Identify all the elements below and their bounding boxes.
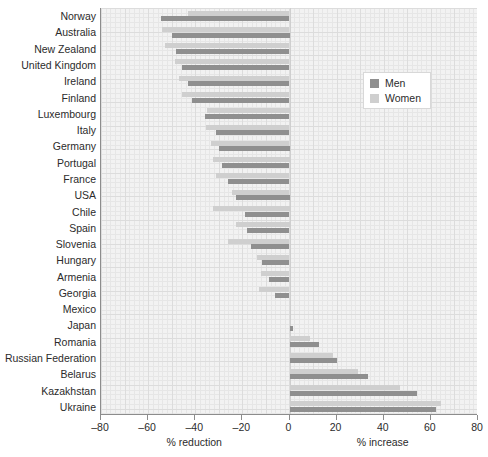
x-axis-ticklabel-40: 40 xyxy=(363,421,403,433)
bar-women-norway xyxy=(188,11,289,16)
y-axis-label-italy: Italy xyxy=(0,125,96,135)
y-axis-label-japan: Japan xyxy=(0,320,96,330)
legend-swatch-women-icon xyxy=(370,94,379,103)
legend-label-women: Women xyxy=(385,93,421,103)
bar-men-australia xyxy=(172,33,290,38)
y-axis-label-kazakhstan: Kazakhstan xyxy=(0,386,96,396)
x-axis-ticklabel-0: 0 xyxy=(269,421,309,433)
bar-men-belarus xyxy=(290,374,369,379)
bar-women-france xyxy=(216,173,289,178)
bar-men-slovenia xyxy=(251,244,290,249)
bar-women-ireland xyxy=(179,76,290,81)
x-axis-ticklabel-60: 60 xyxy=(410,421,450,433)
bar-women-georgia xyxy=(259,287,290,292)
x-axis-tick--20 xyxy=(241,415,242,420)
y-axis-label-armenia: Armenia xyxy=(0,272,96,282)
y-axis-label-united-kingdom: United Kingdom xyxy=(0,60,96,70)
bar-men-france xyxy=(228,179,289,184)
x-axis-ticklabel-20: 20 xyxy=(316,421,356,433)
bar-men-kazakhstan xyxy=(290,391,417,396)
y-axis-label-ireland: Ireland xyxy=(0,76,96,86)
bar-men-luxembourg xyxy=(205,114,290,119)
y-axis-label-mexico: Mexico xyxy=(0,304,96,314)
legend[interactable]: Men Women xyxy=(363,72,431,109)
y-axis-label-new-zealand: New Zealand xyxy=(0,44,96,54)
y-axis-label-finland: Finland xyxy=(0,93,96,103)
bar-women-portugal xyxy=(213,157,290,162)
x-axis-title-reduction: % reduction xyxy=(124,436,264,448)
bar-men-armenia xyxy=(269,277,289,282)
bar-women-australia xyxy=(162,27,289,32)
bar-men-russian-federation xyxy=(290,358,337,363)
x-axis-ticklabel--20: –20 xyxy=(221,421,261,433)
bar-women-kazakhstan xyxy=(290,385,401,390)
y-axis-label-chile: Chile xyxy=(0,207,96,217)
y-axis-label-usa: USA xyxy=(0,190,96,200)
bar-women-armenia xyxy=(261,271,289,276)
x-axis-tick--60 xyxy=(147,415,148,420)
bar-women-chile xyxy=(213,206,290,211)
bar-women-luxembourg xyxy=(207,108,289,113)
y-axis-label-germany: Germany xyxy=(0,141,96,151)
x-axis-ticklabel--60: –60 xyxy=(127,421,167,433)
x-axis-ticklabel-80: 80 xyxy=(457,421,488,433)
plot-area xyxy=(100,8,477,415)
x-axis-tick-80 xyxy=(477,415,478,420)
bar-men-italy xyxy=(216,130,289,135)
bar-women-italy xyxy=(206,125,290,130)
y-axis-label-ukraine: Ukraine xyxy=(0,402,96,412)
bar-men-georgia xyxy=(275,293,289,298)
bar-women-hungary xyxy=(257,255,290,260)
x-axis-tick-0 xyxy=(289,415,290,420)
bar-men-chile xyxy=(245,212,290,217)
bar-men-new-zealand xyxy=(176,49,289,54)
bar-women-slovenia xyxy=(228,239,289,244)
y-axis-label-spain: Spain xyxy=(0,223,96,233)
bar-men-germany xyxy=(219,146,290,151)
bar-men-finland xyxy=(192,98,290,103)
y-axis-labels: NorwayAustraliaNew ZealandUnited Kingdom… xyxy=(0,8,96,415)
bar-men-hungary xyxy=(262,260,289,265)
bar-men-portugal xyxy=(222,163,289,168)
bar-men-usa xyxy=(236,195,289,200)
y-axis-label-russian-federation: Russian Federation xyxy=(0,353,96,363)
y-axis-label-romania: Romania xyxy=(0,337,96,347)
bar-women-new-zealand xyxy=(165,43,290,48)
y-axis-label-belarus: Belarus xyxy=(0,369,96,379)
bar-men-ukraine xyxy=(290,407,436,412)
legend-label-men: Men xyxy=(385,78,405,88)
bar-women-ukraine xyxy=(290,401,442,406)
y-axis-label-australia: Australia xyxy=(0,27,96,37)
y-axis-label-portugal: Portugal xyxy=(0,158,96,168)
bar-men-spain xyxy=(247,228,289,233)
x-axis-tick-20 xyxy=(336,415,337,420)
x-axis-tick-60 xyxy=(430,415,431,420)
bar-women-russian-federation xyxy=(290,353,334,358)
legend-item-women[interactable]: Women xyxy=(370,93,421,103)
bar-women-usa xyxy=(232,190,290,195)
bar-men-united-kingdom xyxy=(182,65,289,70)
bar-women-romania xyxy=(290,336,310,341)
bar-women-belarus xyxy=(290,369,358,374)
bar-women-spain xyxy=(236,222,289,227)
bar-women-finland xyxy=(182,92,289,97)
legend-item-men[interactable]: Men xyxy=(370,78,421,88)
bar-men-norway xyxy=(161,16,289,21)
y-axis-label-luxembourg: Luxembourg xyxy=(0,109,96,119)
y-axis-label-hungary: Hungary xyxy=(0,255,96,265)
legend-swatch-men-icon xyxy=(370,79,379,88)
y-axis-label-norway: Norway xyxy=(0,11,96,21)
bar-men-ireland xyxy=(188,81,289,86)
y-axis-label-france: France xyxy=(0,174,96,184)
x-axis-tick--40 xyxy=(194,415,195,420)
bar-women-germany xyxy=(211,141,290,146)
y-axis-label-georgia: Georgia xyxy=(0,288,96,298)
x-axis-ticklabel--40: –40 xyxy=(174,421,214,433)
x-axis-title-increase: % increase xyxy=(313,436,453,448)
bar-men-romania xyxy=(290,342,319,347)
x-axis-tick-40 xyxy=(383,415,384,420)
y-axis-label-slovenia: Slovenia xyxy=(0,239,96,249)
bar-men-japan xyxy=(290,326,294,331)
bar-women-united-kingdom xyxy=(175,59,289,64)
